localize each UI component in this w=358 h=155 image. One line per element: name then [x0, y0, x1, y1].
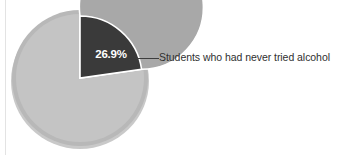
callout-leader-line [136, 58, 159, 59]
pie-chart-figure: 26.9% Students who had never tried alcoh… [0, 0, 358, 155]
slice-value-label: 26.9% [86, 47, 136, 61]
pie-chart-graphic [0, 0, 358, 155]
slice-callout-label: Students who had never tried alcohol [159, 50, 330, 64]
